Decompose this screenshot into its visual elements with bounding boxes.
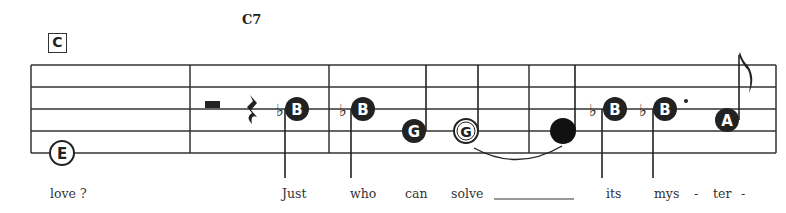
svg-text:B: B bbox=[291, 101, 302, 119]
note-b-flat: ♭ B bbox=[589, 97, 627, 178]
lyric-hyphen: - bbox=[694, 186, 698, 201]
svg-text:♭: ♭ bbox=[589, 100, 597, 120]
svg-text:B: B bbox=[609, 101, 620, 119]
svg-text:♭: ♭ bbox=[639, 100, 647, 120]
lyric-can: can bbox=[405, 186, 428, 201]
lyric-mys: mys bbox=[654, 186, 679, 201]
svg-text:E: E bbox=[57, 145, 67, 163]
note-a-eighth: A bbox=[715, 52, 752, 132]
svg-text:B: B bbox=[659, 101, 670, 119]
lyric-ter: ter bbox=[713, 186, 731, 201]
svg-text:♭: ♭ bbox=[276, 100, 284, 120]
svg-text:G: G bbox=[408, 123, 420, 141]
half-rest-icon bbox=[205, 101, 220, 108]
lyric-just: Just bbox=[282, 186, 307, 201]
svg-text:G: G bbox=[460, 124, 472, 140]
note-b-flat: ♭ B bbox=[276, 97, 309, 178]
lyric-hyphen: - bbox=[741, 186, 745, 201]
svg-text:B: B bbox=[357, 101, 368, 119]
note-e: E bbox=[50, 141, 74, 165]
note-g: G bbox=[402, 65, 426, 143]
lyric-love: love ? bbox=[50, 186, 87, 201]
note-b-flat: ♭ B bbox=[339, 97, 375, 178]
note-g-hollow: G bbox=[454, 65, 478, 143]
svg-text:A: A bbox=[721, 112, 733, 130]
lyric-its: its bbox=[606, 186, 621, 201]
note-tied bbox=[550, 65, 576, 144]
music-staff: E ♭ B ♭ B G G ♭ B bbox=[0, 0, 786, 213]
lyric-solve: solve bbox=[451, 186, 483, 201]
svg-text:♭: ♭ bbox=[339, 100, 347, 120]
lyric-who: who bbox=[350, 186, 376, 201]
